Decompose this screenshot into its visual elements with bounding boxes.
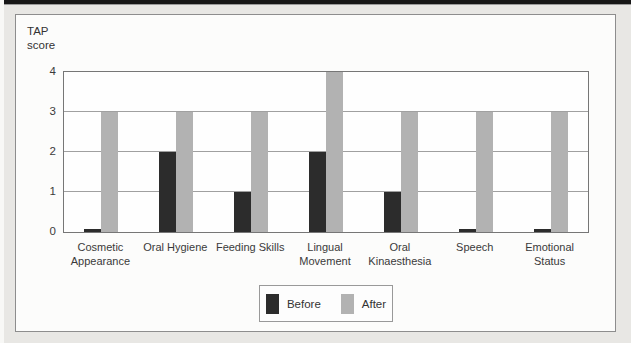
legend-swatch-before — [266, 294, 279, 314]
x-label-feeding-skills: Feeding Skills — [213, 241, 288, 268]
bar-after-feeding-skills — [251, 112, 268, 232]
bar-series — [64, 72, 588, 232]
x-label-emotional-status: Emotional Status — [512, 241, 587, 268]
bar-group-lingual-movement — [289, 72, 364, 232]
x-label-cosmetic-appearance: Cosmetic Appearance — [63, 241, 138, 268]
scanned-page: { "page": { "background_color": "#e8e7e4… — [0, 0, 631, 343]
y-tick-2: 2 — [36, 144, 56, 158]
bar-before-speech — [459, 229, 476, 232]
bar-group-cosmetic-appearance — [64, 72, 139, 232]
y-tick-3: 3 — [36, 104, 56, 118]
bar-after-cosmetic-appearance — [101, 112, 118, 232]
x-label-oral-kinaesthesia: Oral Kinaesthesia — [362, 241, 437, 268]
bar-before-emotional-status — [534, 229, 551, 232]
x-label-lingual-movement: Lingual Movement — [288, 241, 363, 268]
bar-after-lingual-movement — [326, 72, 343, 232]
bar-before-oral-kinaesthesia — [384, 192, 401, 232]
x-label-oral-hygiene: Oral Hygiene — [138, 241, 213, 268]
legend-label-before: Before — [287, 298, 321, 310]
bar-after-oral-kinaesthesia — [401, 112, 418, 232]
legend: BeforeAfter — [259, 285, 393, 322]
y-tick-1: 1 — [36, 184, 56, 198]
bar-group-speech — [438, 72, 513, 232]
chart-figure: TAP score 01234 Cosmetic AppearanceOral … — [15, 14, 616, 332]
x-label-speech: Speech — [437, 241, 512, 268]
y-tick-0: 0 — [36, 224, 56, 238]
legend-item-before: Before — [266, 294, 321, 314]
bar-before-feeding-skills — [234, 192, 251, 232]
bar-group-oral-hygiene — [139, 72, 214, 232]
x-axis-category-labels: Cosmetic AppearanceOral HygieneFeeding S… — [63, 241, 587, 268]
bar-group-oral-kinaesthesia — [363, 72, 438, 232]
bar-after-oral-hygiene — [176, 112, 193, 232]
top-rule — [4, 0, 631, 5]
bar-before-oral-hygiene — [159, 152, 176, 232]
bar-after-speech — [476, 112, 493, 232]
plot-area — [63, 71, 589, 233]
legend-swatch-after — [341, 294, 354, 314]
y-axis-title: TAP score — [27, 24, 55, 52]
bar-after-emotional-status — [551, 112, 568, 232]
bar-group-emotional-status — [513, 72, 588, 232]
legend-label-after: After — [362, 298, 386, 310]
y-tick-4: 4 — [36, 64, 56, 78]
legend-item-after: After — [341, 294, 386, 314]
page-margin-strip — [0, 0, 4, 343]
bar-group-feeding-skills — [214, 72, 289, 232]
bar-before-lingual-movement — [309, 152, 326, 232]
bar-before-cosmetic-appearance — [84, 229, 101, 232]
